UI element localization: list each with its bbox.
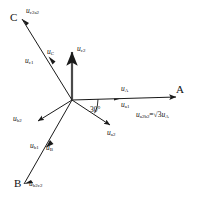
- vector-label-ub2c2: ub2c2: [29, 180, 42, 189]
- vector-label-uA: uA: [121, 85, 128, 94]
- vector-label-uc2: uc2: [77, 45, 85, 54]
- vector-label-ub2: ub2: [13, 115, 22, 124]
- node-label-C: C: [10, 12, 17, 23]
- equation-lhs-sub: a2b2: [140, 114, 150, 119]
- vector-sub-ua2: a2: [111, 132, 116, 137]
- equation-ua2b2: ua2b2=√3uA: [136, 111, 169, 120]
- vector-ub2-line: [38, 100, 72, 121]
- vector-sub-ua1: a1: [125, 104, 130, 109]
- equation-rhs-sub: A: [165, 114, 169, 119]
- vector-sub-ub2: b2: [17, 118, 22, 123]
- vector-sub-uA: A: [125, 88, 129, 93]
- vector-sub-ub2c2: b2c2: [33, 183, 43, 188]
- node-label-B: B: [14, 178, 21, 189]
- angle-value: 30: [90, 105, 98, 114]
- angle-unit: °: [98, 105, 101, 114]
- vector-label-uC: uC: [47, 48, 54, 57]
- vector-label-uB: uB: [46, 144, 53, 153]
- angle-label-30deg: 30°: [90, 106, 101, 114]
- vector-sub-uc1: c1: [29, 60, 34, 65]
- vector-label-ua1: ua1: [121, 101, 129, 110]
- vector-sub-uc2: c2: [81, 48, 86, 53]
- vector-sub-uB: B: [50, 147, 53, 152]
- phasor-diagram-figure: A B C uc2a2 uc1 uC uc2 uA ua1 ua2 ub2 ub…: [0, 0, 203, 205]
- vector-sub-uc2a2: c2a2: [30, 10, 39, 15]
- vector-sub-uC: C: [51, 51, 54, 56]
- node-label-A: A: [176, 84, 184, 95]
- vector-label-ub1: ub1: [30, 142, 39, 151]
- diagram-canvas: [0, 0, 203, 205]
- vector-sub-ub1: b1: [34, 145, 39, 150]
- vector-label-ua2: ua2: [107, 129, 115, 138]
- vector-label-uc2a2: uc2a2: [26, 7, 39, 16]
- vector-label-uc1: uc1: [25, 57, 33, 66]
